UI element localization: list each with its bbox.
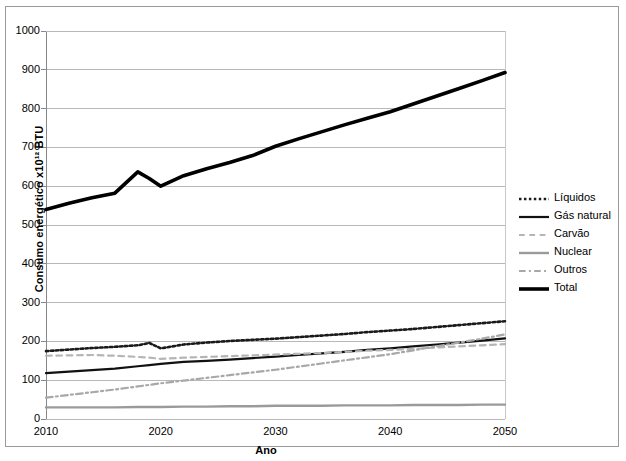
y-tick-label: 500 xyxy=(0,218,40,230)
legend-line-swatch xyxy=(519,191,549,203)
y-tick-label: 100 xyxy=(0,373,40,385)
y-tick-label: 300 xyxy=(0,296,40,308)
legend-item-outros[interactable]: Outros xyxy=(519,260,619,278)
x-tick-label: 2040 xyxy=(360,425,420,437)
y-tick-label: 200 xyxy=(0,334,40,346)
y-tick-label: 800 xyxy=(0,102,40,114)
x-tick-label: 2020 xyxy=(131,425,191,437)
legend-label: Gás natural xyxy=(554,209,611,221)
legend-label: Total xyxy=(554,281,577,293)
legend-line-swatch xyxy=(519,281,549,293)
chart-figure-frame: Consumo energético x10¹² BTU Ano 0100200… xyxy=(5,6,619,447)
legend-item-l-quidos[interactable]: Líquidos xyxy=(519,188,619,206)
legend-label: Carvão xyxy=(554,227,589,239)
y-tick-label: 700 xyxy=(0,140,40,152)
y-tick-label: 0 xyxy=(0,412,40,424)
chart-legend: LíquidosGás naturalCarvãoNuclearOutrosTo… xyxy=(519,188,619,296)
legend-line-swatch xyxy=(519,227,549,239)
legend-line-swatch xyxy=(519,263,549,275)
y-tick-label: 1000 xyxy=(0,24,40,36)
legend-item-carv-o[interactable]: Carvão xyxy=(519,224,619,242)
x-axis-title: Ano xyxy=(6,444,526,456)
legend-label: Nuclear xyxy=(554,245,592,257)
y-tick-label: 400 xyxy=(0,257,40,269)
x-tick-label: 2050 xyxy=(475,425,535,437)
legend-item-nuclear[interactable]: Nuclear xyxy=(519,242,619,260)
legend-label: Líquidos xyxy=(554,191,596,203)
x-tick-label: 2030 xyxy=(246,425,306,437)
legend-item-g-s-natural[interactable]: Gás natural xyxy=(519,206,619,224)
x-tick-label: 2010 xyxy=(16,425,76,437)
y-tick-label: 600 xyxy=(0,179,40,191)
legend-label: Outros xyxy=(554,263,587,275)
legend-line-swatch xyxy=(519,209,549,221)
y-tick-label: 900 xyxy=(0,63,40,75)
legend-item-total[interactable]: Total xyxy=(519,278,619,296)
legend-line-swatch xyxy=(519,245,549,257)
